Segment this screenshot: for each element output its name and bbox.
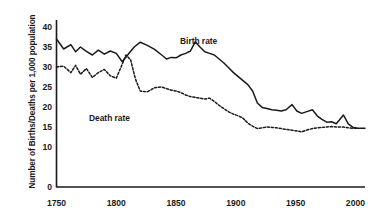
x-tick-label-1950: 1950	[274, 198, 318, 208]
death-rate-annotation: Death rate	[89, 113, 130, 123]
birth-death-rate-chart: Number of Births/Deaths per 1,000 popula…	[0, 0, 373, 223]
birth-rate-annotation: Birth rate	[180, 36, 217, 46]
x-tick-label-1850: 1850	[154, 198, 198, 208]
chart-plot-area	[0, 0, 373, 223]
x-tick-label-1800: 1800	[94, 198, 138, 208]
x-tick-label-2000: 2000	[333, 198, 373, 208]
x-tick-label-1750: 1750	[35, 198, 79, 208]
x-tick-label-1900: 1900	[214, 198, 258, 208]
